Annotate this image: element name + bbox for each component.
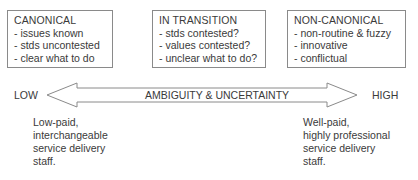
box-item: - stds contested? xyxy=(159,27,265,40)
box-title: CANONICAL xyxy=(14,14,112,27)
canonical-box: CANONICAL - issues known - stds uncontes… xyxy=(7,10,113,68)
note-line: highly professional xyxy=(303,129,390,142)
box-item: - non-routine & fuzzy xyxy=(294,27,405,40)
box-item: - stds uncontested xyxy=(14,39,112,52)
box-item: - conflictual xyxy=(294,52,405,65)
note-line: service delivery xyxy=(303,142,390,155)
non-canonical-box: NON-CANONICAL - non-routine & fuzzy - in… xyxy=(287,10,406,68)
low-end-note: Low-paid, interchangeable service delive… xyxy=(33,116,108,168)
box-title: NON-CANONICAL xyxy=(294,14,405,27)
low-label: LOW xyxy=(14,89,38,101)
axis-label: AMBIGUITY & UNCERTAINTY xyxy=(145,89,289,101)
in-transition-box: IN TRANSITION - stds contested? - values… xyxy=(152,10,266,68)
box-title: IN TRANSITION xyxy=(159,14,265,27)
box-item: - clear what to do xyxy=(14,52,112,65)
box-item: - issues known xyxy=(14,27,112,40)
box-item: - unclear what to do? xyxy=(159,52,265,65)
note-line: interchangeable xyxy=(33,129,108,142)
note-line: staff. xyxy=(303,155,390,168)
high-end-note: Well-paid, highly professional service d… xyxy=(303,116,390,168)
note-line: service delivery xyxy=(33,142,108,155)
box-item: - innovative xyxy=(294,39,405,52)
high-label: HIGH xyxy=(372,89,398,101)
note-line: staff. xyxy=(33,155,108,168)
note-line: Well-paid, xyxy=(303,116,390,129)
box-item: - values contested? xyxy=(159,39,265,52)
note-line: Low-paid, xyxy=(33,116,108,129)
